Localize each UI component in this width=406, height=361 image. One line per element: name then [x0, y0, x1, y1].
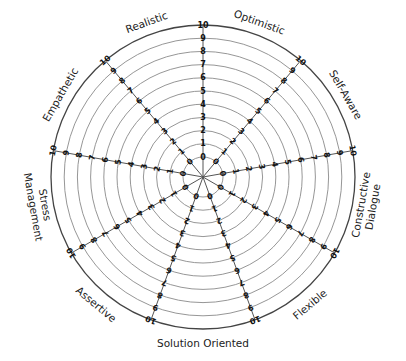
- tick-label: 8: [322, 152, 332, 159]
- tick-label: 0: [200, 153, 206, 162]
- tick-label: 9: [200, 34, 206, 43]
- tick-label: 1: [200, 139, 206, 148]
- tick-label: 8: [89, 235, 100, 245]
- category-label: Flexible: [290, 287, 329, 322]
- tick-label: 5: [113, 158, 123, 165]
- tick-label: 6: [283, 222, 294, 232]
- tick-label: 3: [249, 202, 260, 211]
- tick-label: 9: [335, 149, 345, 156]
- category-label: Optimistic: [232, 7, 286, 37]
- category-label: Solution Oriented: [157, 337, 249, 349]
- tick-label: 6: [296, 156, 306, 163]
- tick-label: 0: [192, 190, 201, 201]
- tick-label: 2: [152, 165, 162, 172]
- tick-label: 9: [109, 65, 119, 76]
- tick-label: 4: [223, 240, 232, 251]
- tick-label: 4: [261, 209, 272, 219]
- tick-label: 6: [232, 265, 241, 276]
- tick-label: 6: [165, 265, 174, 276]
- tick-label: 5: [283, 159, 293, 166]
- category-label: ConstructiveDialogue: [349, 171, 384, 241]
- tick-label: 5: [123, 215, 134, 225]
- tick-label: 10: [248, 314, 262, 326]
- tick-label: 1: [210, 203, 219, 214]
- tick-label: 2: [215, 215, 223, 225]
- tick-label: 8: [306, 235, 317, 245]
- tick-label: 6: [112, 222, 123, 232]
- tick-label: 7: [237, 277, 245, 287]
- tick-label: 9: [246, 302, 255, 313]
- tick-label: 1: [187, 203, 196, 214]
- tick-label: 5: [169, 252, 178, 263]
- tick-label: 0: [205, 191, 214, 202]
- tick-label: 1: [231, 168, 241, 175]
- category-label: Self-Aware: [327, 68, 365, 122]
- tick-label: 2: [183, 215, 191, 225]
- tick-label: 8: [241, 290, 250, 301]
- tick-label: 9: [151, 302, 160, 313]
- tick-label: 8: [200, 47, 206, 56]
- category-label: StressManagement: [22, 170, 58, 242]
- tick-label: 10: [64, 246, 78, 261]
- tick-label: 2: [200, 126, 206, 135]
- tick-label: 2: [158, 196, 169, 205]
- tick-label: 0: [180, 182, 191, 192]
- tick-label: 3: [219, 228, 227, 238]
- tick-label: 3: [257, 163, 267, 170]
- tick-label: 7: [87, 154, 97, 161]
- tick-label: 1: [169, 189, 180, 199]
- tick-label: 6: [200, 73, 206, 82]
- tick-label: 7: [100, 229, 111, 238]
- tick-label: 7: [160, 277, 168, 287]
- tick-label: 4: [126, 160, 136, 167]
- tick-label: 4: [134, 208, 145, 218]
- radar-chart: 0123456789100123456789100123456789100123…: [0, 0, 406, 361]
- tick-label: 1: [226, 189, 237, 199]
- tick-label: 8: [155, 290, 164, 301]
- tick-label: 7: [200, 60, 206, 69]
- tick-label: 2: [244, 165, 254, 172]
- tick-label: 1: [165, 167, 175, 174]
- tick-label: 0: [218, 170, 228, 177]
- tick-label: 9: [77, 241, 88, 251]
- tick-label: 10: [48, 144, 59, 157]
- tick-label: 10: [197, 21, 209, 30]
- category-label: Assertive: [74, 284, 119, 324]
- tick-label: 3: [178, 228, 186, 238]
- tick-label: 10: [347, 144, 358, 157]
- tick-label: 8: [74, 151, 84, 158]
- tick-label: 5: [272, 215, 283, 225]
- tick-label: 4: [174, 240, 183, 251]
- tick-label: 10: [328, 246, 342, 261]
- tick-label: 5: [200, 87, 206, 96]
- tick-label: 7: [309, 154, 319, 161]
- tick-label: 3: [200, 113, 206, 122]
- tick-label: 2: [238, 196, 249, 205]
- tick-label: 4: [200, 100, 206, 109]
- tick-label: 7: [295, 229, 306, 238]
- tick-label: 10: [144, 314, 158, 326]
- tick-label: 5: [228, 253, 237, 264]
- tick-label: 6: [100, 156, 110, 163]
- tick-label: 0: [178, 170, 188, 177]
- tick-label: 3: [146, 202, 157, 211]
- tick-label: 0: [215, 182, 226, 192]
- tick-label: 9: [61, 149, 71, 156]
- tick-label: 3: [139, 163, 149, 170]
- category-label: Empathetic: [40, 65, 81, 123]
- tick-label: 9: [318, 242, 329, 252]
- tick-label: 4: [270, 161, 280, 168]
- axis-spokes: [53, 25, 352, 320]
